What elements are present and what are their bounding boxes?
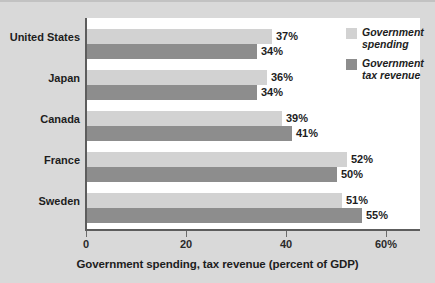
x-tick-60 bbox=[386, 231, 387, 237]
x-tick-label-20: 20 bbox=[180, 238, 192, 250]
y-axis-category-labels: United States Japan Canada France Sweden bbox=[0, 0, 80, 283]
bar-tax-sweden bbox=[87, 208, 362, 223]
category-label-france: France bbox=[2, 154, 80, 166]
bar-tax-france bbox=[87, 167, 337, 182]
bar-value-tax-france: 50% bbox=[337, 167, 363, 182]
legend-swatch-icon-spending bbox=[346, 28, 357, 39]
chart-figure: United States Japan Canada France Sweden… bbox=[0, 0, 435, 283]
category-label-canada: Canada bbox=[2, 113, 80, 125]
bar-value-spending-united-states: 37% bbox=[272, 29, 298, 44]
bar-value-spending-france: 52% bbox=[347, 152, 373, 167]
bar-tax-japan bbox=[87, 85, 257, 100]
x-tick-label-40: 40 bbox=[280, 238, 292, 250]
bar-value-tax-sweden: 55% bbox=[362, 208, 388, 223]
category-label-sweden: Sweden bbox=[2, 195, 80, 207]
chart-legend: Government spending Government tax reven… bbox=[346, 26, 418, 88]
bar-value-spending-japan: 36% bbox=[267, 70, 293, 85]
legend-swatch-icon-tax-revenue bbox=[346, 59, 357, 70]
x-tick-40 bbox=[286, 231, 287, 237]
legend-label-spending: Government spending bbox=[362, 26, 424, 50]
y-axis-line bbox=[85, 18, 87, 230]
bar-spending-france bbox=[87, 152, 347, 167]
bar-spending-canada bbox=[87, 111, 282, 126]
legend-item-government-spending: Government spending bbox=[346, 26, 418, 50]
bar-tax-canada bbox=[87, 126, 292, 141]
bar-value-tax-japan: 34% bbox=[257, 85, 283, 100]
legend-label-tax-revenue: Government tax revenue bbox=[362, 57, 424, 81]
x-axis-line bbox=[85, 229, 420, 231]
bar-spending-japan bbox=[87, 70, 267, 85]
bar-value-tax-united-states: 34% bbox=[257, 44, 283, 59]
x-tick-label-0: 0 bbox=[83, 238, 89, 250]
legend-item-government-tax-revenue: Government tax revenue bbox=[346, 57, 418, 81]
bar-spending-united-states bbox=[87, 29, 272, 44]
bar-value-tax-canada: 41% bbox=[292, 126, 318, 141]
bar-spending-sweden bbox=[87, 193, 342, 208]
x-tick-0 bbox=[86, 231, 87, 237]
x-axis-title: Government spending, tax revenue (percen… bbox=[0, 258, 435, 270]
bar-value-spending-sweden: 51% bbox=[342, 193, 368, 208]
category-label-united-states: United States bbox=[2, 31, 80, 43]
category-label-japan: Japan bbox=[2, 72, 80, 84]
x-tick-label-60: 60% bbox=[375, 238, 397, 250]
bar-value-spending-canada: 39% bbox=[282, 111, 308, 126]
bar-tax-united-states bbox=[87, 44, 257, 59]
x-tick-20 bbox=[186, 231, 187, 237]
